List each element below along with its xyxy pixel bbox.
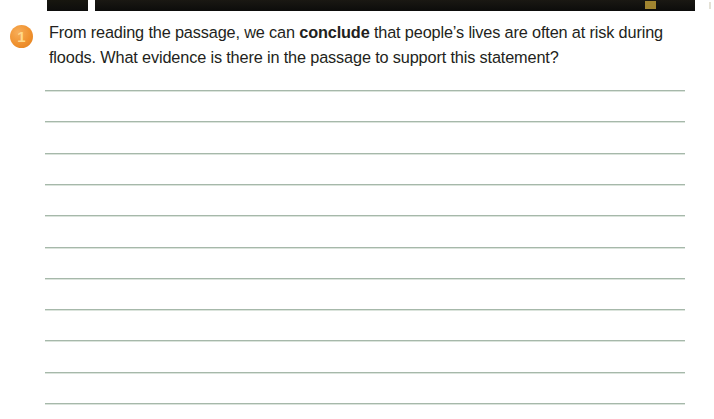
answer-rule-line[interactable] — [45, 153, 685, 154]
answer-lines-area[interactable] — [0, 0, 714, 419]
answer-rule-line[interactable] — [45, 247, 685, 248]
answer-rule-line[interactable] — [45, 184, 685, 185]
answer-rule-line[interactable] — [45, 278, 685, 279]
answer-rule-line[interactable] — [45, 90, 685, 91]
answer-rule-line[interactable] — [45, 403, 685, 404]
answer-rule-line[interactable] — [45, 340, 685, 341]
answer-rule-line[interactable] — [45, 121, 685, 122]
answer-rule-line[interactable] — [45, 215, 685, 216]
answer-rule-line[interactable] — [45, 309, 685, 310]
answer-rule-line[interactable] — [45, 372, 685, 373]
worksheet-page: 1 From reading the passage, we can concl… — [0, 0, 714, 419]
